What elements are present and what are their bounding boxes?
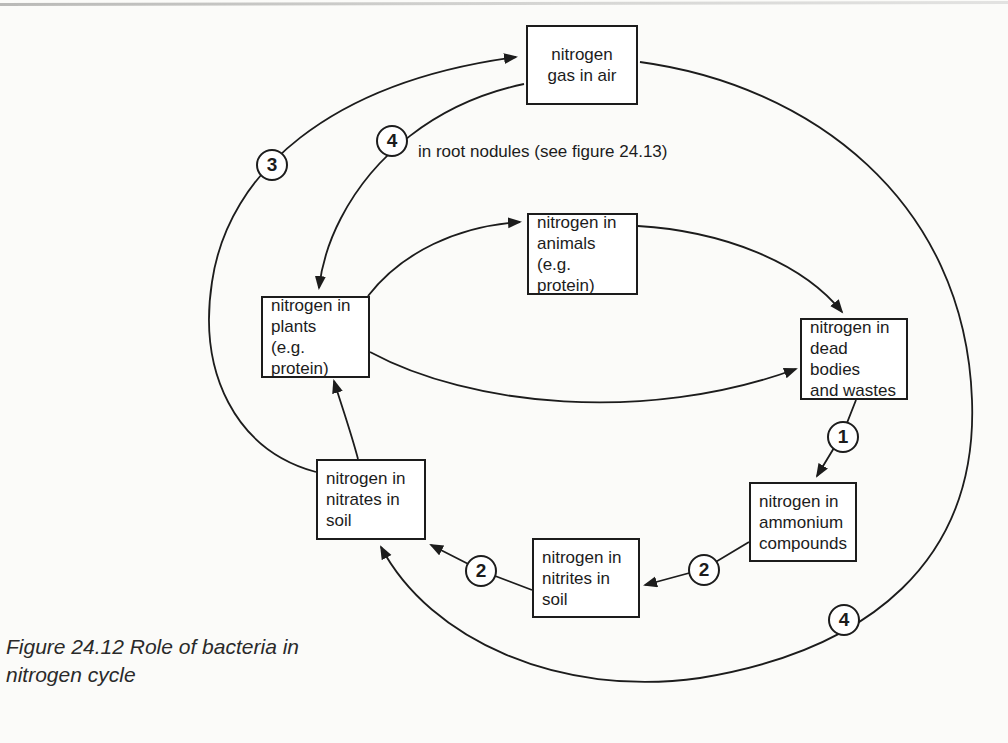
- step-badge-4-soil: 4: [828, 604, 860, 636]
- arrow-gas-to-plants-root-nodules: [319, 84, 524, 288]
- step-badge-1: 1: [827, 421, 859, 453]
- arrow-nitrates-to-gas: [209, 57, 516, 472]
- box-nitrogen-in-ammonium: nitrogen in ammonium compounds: [749, 482, 857, 562]
- step-badge-4-root-nodules: 4: [376, 125, 408, 157]
- box-nitrogen-in-nitrites: nitrogen in nitrites in soil: [532, 538, 640, 618]
- step-badge-2-to-nitrites: 2: [688, 554, 720, 586]
- step-badge-2-to-nitrates: 2: [465, 555, 497, 587]
- box-nitrogen-in-dead-bodies: nitrogen in dead bodies and wastes: [800, 318, 908, 400]
- nitrogen-cycle-diagram: nitrogen gas in air nitrogen in animals …: [0, 0, 1008, 743]
- figure-caption: Figure 24.12 Role of bacteria in nitroge…: [6, 633, 299, 689]
- step-badge-3: 3: [256, 149, 288, 181]
- root-nodules-annotation: in root nodules (see figure 24.13): [418, 142, 668, 162]
- figure-caption-line1: Figure 24.12 Role of bacteria in: [6, 633, 299, 661]
- box-nitrogen-in-plants: nitrogen in plants (e.g. protein): [261, 296, 370, 378]
- arrow-plants-to-dead-bodies: [370, 352, 796, 402]
- box-nitrogen-in-nitrates: nitrogen in nitrates in soil: [316, 459, 426, 540]
- box-nitrogen-in-animals: nitrogen in animals (e.g. protein): [527, 213, 638, 295]
- arrow-nitrates-to-plants: [334, 381, 358, 459]
- figure-caption-line2: nitrogen cycle: [6, 661, 299, 689]
- arrow-plants-to-animals: [368, 222, 520, 296]
- arrow-animals-to-dead-bodies: [638, 226, 842, 312]
- box-nitrogen-gas-in-air: nitrogen gas in air: [526, 25, 638, 105]
